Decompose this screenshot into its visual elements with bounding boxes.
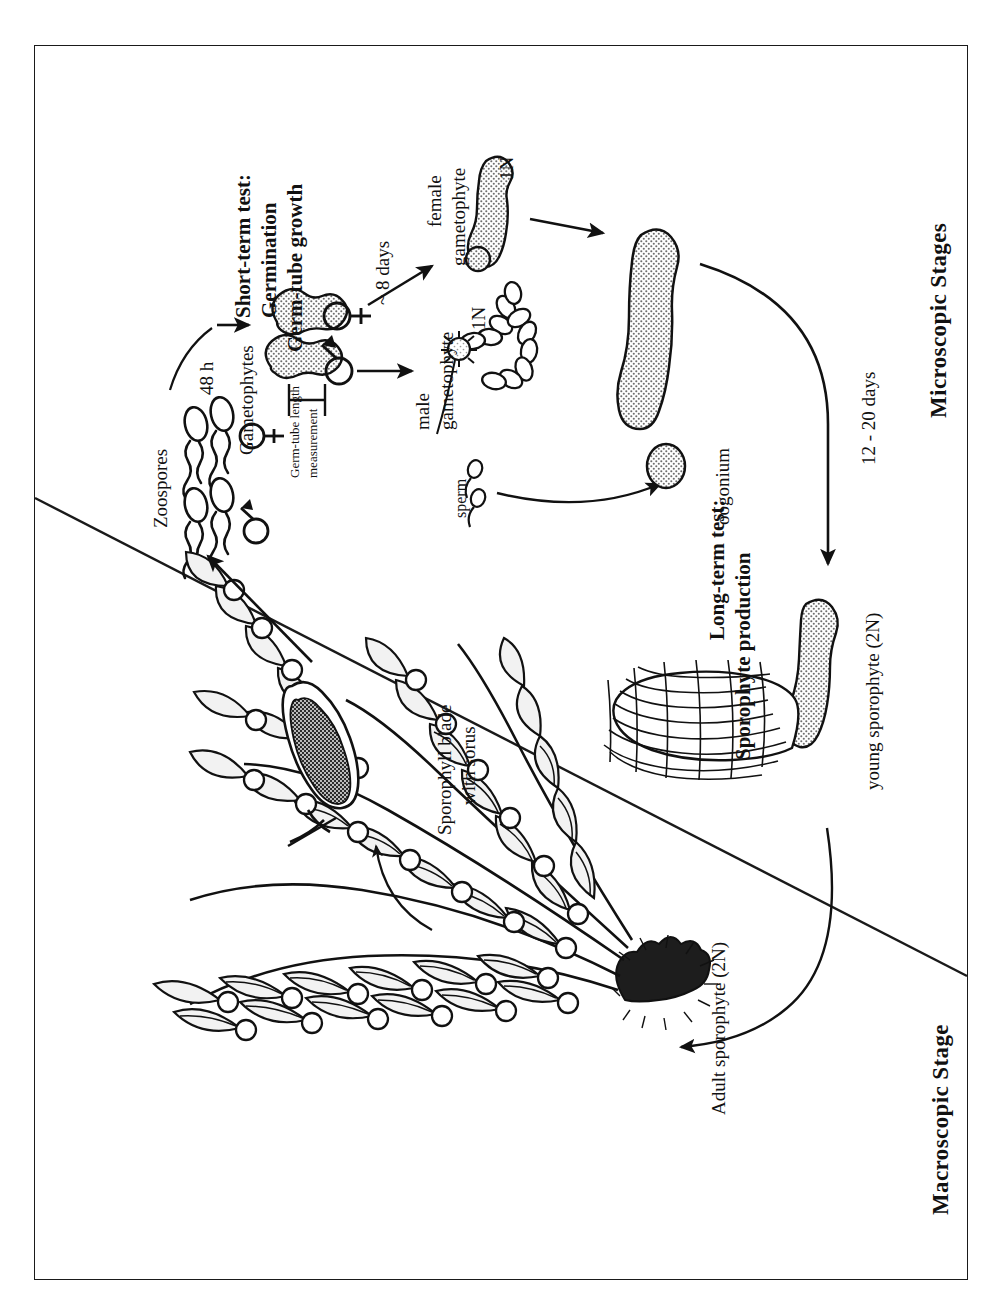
label-young-sporophyte: young sporophyte (2N) bbox=[862, 613, 883, 790]
label-12-20-days: 12 - 20 days bbox=[858, 372, 879, 465]
label-adult-sporophyte: Adult sporophyte (2N) bbox=[708, 942, 729, 1115]
label-female-gametophyte-line1: female bbox=[424, 175, 445, 227]
short-term-test-line2: Germination bbox=[258, 203, 282, 319]
label-male-gametophyte-line2: gametophyte bbox=[436, 332, 457, 430]
ploidy-label-female: 1N bbox=[496, 157, 517, 180]
label-gametophytes: Gametophytes bbox=[236, 345, 257, 455]
figure-frame bbox=[34, 45, 968, 1280]
label-48h: 48 h bbox=[196, 362, 217, 395]
long-term-test-line2: Sporophyte production bbox=[732, 552, 756, 760]
label-germ-tube-line2: measurement bbox=[306, 409, 321, 478]
label-sperm: sperm bbox=[452, 479, 470, 518]
section-label-macroscopic: Macroscopic Stage bbox=[928, 1024, 954, 1215]
figure-page: Microscopic Stages Macroscopic Stage Sho… bbox=[0, 0, 1004, 1316]
short-term-test-line1: Short-term test: bbox=[232, 174, 256, 318]
label-oogonium: oogonium bbox=[712, 448, 733, 525]
label-male-gametophyte-line1: male bbox=[412, 393, 433, 430]
short-term-test-line3: Germ-tube growth bbox=[284, 184, 308, 352]
label-germ-tube-line1: Germ-tube length bbox=[288, 386, 303, 478]
label-sporophyll-line1: Sporophyll blade bbox=[434, 705, 455, 835]
label-female-gametophyte-line2: gametophyte bbox=[448, 168, 469, 266]
label-8-days: ~ 8 days bbox=[372, 241, 393, 305]
label-zoospores: Zoospores bbox=[150, 449, 171, 528]
section-label-microscopic: Microscopic Stages bbox=[926, 223, 952, 418]
label-sporophyll-line2: with sorus bbox=[458, 726, 479, 805]
ploidy-label-male: 1N bbox=[468, 307, 489, 330]
